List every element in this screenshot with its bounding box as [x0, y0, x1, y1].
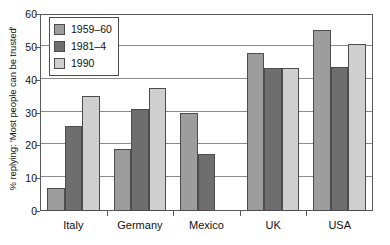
legend-label: 1990: [71, 58, 94, 69]
bar: [198, 154, 216, 211]
bar: [131, 109, 149, 211]
x-category-label-mexico: Mexico: [189, 219, 224, 231]
bar: [313, 30, 331, 211]
bar-group: [247, 14, 300, 211]
legend-item: 1990: [54, 55, 112, 72]
legend-item: 1981–4: [54, 38, 112, 55]
bar: [114, 149, 132, 211]
legend-item: 1959–60: [54, 21, 112, 38]
bar-group: [180, 14, 233, 211]
bar: [282, 68, 300, 211]
x-category-label-germany: Germany: [117, 219, 162, 231]
legend-swatch-icon: [54, 24, 65, 35]
x-category-label-italy: Italy: [63, 219, 83, 231]
x-tick-mark: [107, 211, 108, 216]
y-tick-label: 60: [11, 9, 37, 20]
y-tick-label: 40: [11, 74, 37, 85]
x-tick-mark: [306, 211, 307, 216]
x-category-label-usa: USA: [328, 219, 351, 231]
y-tick-label: 20: [11, 140, 37, 151]
bar: [65, 126, 83, 211]
bar-group: [114, 14, 167, 211]
legend-swatch-icon: [54, 58, 65, 69]
bar-group: [313, 14, 366, 211]
x-category-label-uk: UK: [265, 219, 280, 231]
legend-swatch-icon: [54, 41, 65, 52]
legend-label: 1981–4: [71, 41, 106, 52]
legend-label: 1959–60: [71, 24, 112, 35]
legend: 1959–601981–41990: [49, 17, 119, 76]
y-tick-label: 10: [11, 173, 37, 184]
bar: [264, 68, 282, 211]
bar: [348, 44, 366, 211]
x-tick-mark: [173, 211, 174, 216]
bar: [82, 96, 100, 211]
bar: [247, 53, 265, 211]
bar: [331, 67, 349, 211]
y-tick-mark: [35, 211, 40, 212]
x-tick-mark: [240, 211, 241, 216]
bar-chart: % replying: 'Most people can be trusted'…: [0, 0, 390, 245]
bar: [149, 88, 167, 211]
y-tick-label: 30: [11, 107, 37, 118]
bar: [180, 113, 198, 212]
y-tick-label: 50: [11, 42, 37, 53]
y-tick-label: 0: [11, 206, 37, 217]
bar: [47, 188, 65, 211]
